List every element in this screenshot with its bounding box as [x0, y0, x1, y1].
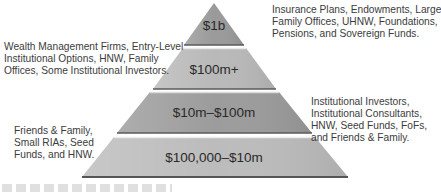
note-line: Family Offices, UHNW, Foundations, [272, 16, 441, 28]
note-line: Pensions, and Sovereign Funds. [272, 28, 441, 40]
note-line: Insurance Plans, Endowments, Large [272, 4, 441, 16]
note-line: Institutional Investors, [311, 96, 427, 108]
tier-1b-label: $1b [203, 18, 226, 33]
note-line: HNW, Seed Funds, FoFs, [311, 120, 427, 132]
tier-100k: $100,000–$10m [82, 137, 348, 177]
note-100k-investors: Friends & Family, Small RIAs, Seed Funds… [14, 125, 94, 161]
note-line: Institutional Options, HNW, Family [4, 53, 183, 65]
note-line: Offices, Some Institutional Investors. [4, 65, 183, 77]
note-line: Funds, and HNW. [14, 149, 94, 161]
tier-100k-label: $100,000–$10m [165, 150, 263, 165]
note-10m-investors: Institutional Investors, Institutional C… [311, 96, 427, 144]
tier-1b: $1b [184, 3, 244, 45]
tier-10m: $10m–$100m [117, 92, 312, 133]
tier-100m-label: $100m+ [189, 62, 238, 77]
note-line: and Friends & Family. [311, 132, 427, 144]
note-1b-investors: Insurance Plans, Endowments, Large Famil… [272, 4, 441, 40]
note-line: Friends & Family, [14, 125, 94, 137]
tier-10m-label: $10m–$100m [173, 105, 256, 120]
note-100m-investors: Wealth Management Firms, Entry-Level Ins… [4, 41, 183, 77]
cropped-caption [2, 184, 172, 192]
note-line: Institutional Consultants, [311, 108, 427, 120]
note-line: Wealth Management Firms, Entry-Level [4, 41, 183, 53]
note-line: Small RIAs, Seed [14, 137, 94, 149]
